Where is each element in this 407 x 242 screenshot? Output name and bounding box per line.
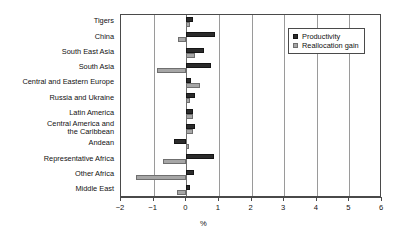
bar-reallocation-gain [157, 68, 186, 73]
bar-productivity [186, 32, 215, 37]
y-axis-label: South Asia [79, 63, 114, 71]
x-axis-tick [316, 197, 317, 201]
y-axis-category-labels: TigersChinaSouth East AsiaSouth AsiaCent… [0, 14, 117, 197]
y-axis-label: China [95, 33, 114, 41]
legend-item-productivity: Productivity [293, 32, 359, 41]
y-axis-label: Representative Africa [44, 155, 114, 163]
bar-productivity [186, 185, 190, 190]
chart-legend: Productivity Reallocation gain [288, 28, 365, 54]
bar-productivity [174, 139, 186, 144]
x-axis-title: % [0, 219, 407, 228]
bar-reallocation-gain [136, 175, 187, 180]
y-axis-label: Central and Eastern Europe [22, 78, 114, 86]
y-axis-label: Middle East [75, 185, 114, 193]
x-axis-tick-label: 3 [271, 203, 295, 212]
x-axis-tick-label: 4 [304, 203, 328, 212]
bar-row [121, 91, 380, 106]
x-axis-tick-label: 1 [206, 203, 230, 212]
bar-reallocation-gain [186, 144, 189, 149]
y-axis-label: Latin America [69, 109, 114, 117]
bar-reallocation-gain [186, 22, 189, 27]
legend-swatch-reallocation-gain-icon [293, 43, 298, 48]
legend-label-reallocation-gain: Reallocation gain [302, 41, 359, 50]
legend-label-productivity: Productivity [302, 32, 340, 41]
x-axis-tick [251, 197, 252, 201]
bar-reallocation-gain [186, 114, 193, 119]
bar-row [121, 122, 380, 137]
legend-item-reallocation-gain: Reallocation gain [293, 41, 359, 50]
x-axis-tick-label: −1 [141, 203, 165, 212]
x-axis-tick [348, 197, 349, 201]
bar-reallocation-gain [178, 37, 186, 42]
x-axis-tick-label: 0 [173, 203, 197, 212]
bar-productivity [186, 170, 194, 175]
x-axis: −2−10123456 [120, 197, 381, 198]
y-axis-label: Russia and Ukraine [50, 94, 115, 102]
x-axis-tick [153, 197, 154, 201]
x-axis-tick [120, 197, 121, 201]
y-axis-label: Central America and the Caribbean [47, 120, 114, 137]
bar-chart: TigersChinaSouth East AsiaSouth AsiaCent… [0, 0, 407, 242]
x-axis-tick [283, 197, 284, 201]
y-axis-label: Other Africa [75, 170, 114, 178]
y-axis-label: Andean [89, 139, 114, 147]
bar-row [121, 152, 380, 167]
bar-productivity [186, 154, 214, 159]
bar-reallocation-gain [163, 159, 186, 164]
bar-row [121, 107, 380, 122]
bar-reallocation-gain [186, 129, 193, 134]
y-axis-label: Tigers [94, 17, 114, 25]
x-axis-tick-label: 5 [336, 203, 360, 212]
bar-reallocation-gain [186, 53, 195, 58]
x-axis-tick-label: 2 [239, 203, 263, 212]
bar-row [121, 76, 380, 91]
bar-reallocation-gain [186, 98, 190, 103]
x-axis-tick [381, 197, 382, 201]
x-axis-tick-label: −2 [108, 203, 132, 212]
x-axis-tick [185, 197, 186, 201]
bar-productivity [186, 63, 210, 68]
bar-row [121, 183, 380, 198]
bar-row [121, 137, 380, 152]
bar-reallocation-gain [177, 190, 186, 195]
bar-reallocation-gain [186, 83, 200, 88]
x-axis-tick [218, 197, 219, 201]
bar-row [121, 61, 380, 76]
legend-swatch-productivity-icon [293, 34, 298, 39]
y-axis-label: South East Asia [62, 48, 114, 56]
x-axis-tick-label: 6 [369, 203, 393, 212]
bar-row [121, 168, 380, 183]
